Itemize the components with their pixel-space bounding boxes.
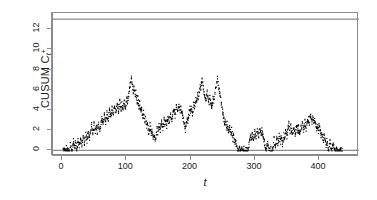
reference-lines bbox=[53, 19, 359, 150]
x-axis: 0100200300400 bbox=[52, 155, 358, 161]
x-axis-tick-label: 200 bbox=[175, 162, 205, 171]
x-axis-tick-label: 0 bbox=[46, 162, 76, 171]
x-axis-tick-label: 100 bbox=[110, 162, 140, 171]
data-points-group bbox=[63, 75, 343, 151]
x-axis-tick bbox=[61, 155, 62, 160]
plot-panel bbox=[52, 12, 358, 155]
cusum-chart-figure: CUSUM Ct+ 0100200300400 t 024681012 bbox=[0, 0, 377, 200]
y-axis-tick-label: 0 bbox=[32, 139, 41, 159]
y-axis-tick-label: 10 bbox=[32, 38, 41, 58]
y-axis-tick-label: 4 bbox=[32, 99, 41, 119]
y-axis-tick-label: 2 bbox=[32, 119, 41, 139]
y-axis-tick-label: 8 bbox=[32, 58, 41, 78]
y-axis-tick-label: 6 bbox=[32, 78, 41, 98]
x-axis-tick bbox=[190, 155, 191, 160]
cusum-series-marks bbox=[63, 75, 343, 151]
y-axis-tick-label: 12 bbox=[32, 18, 41, 38]
plot-area bbox=[53, 13, 359, 156]
x-axis-tick-label: 300 bbox=[239, 162, 269, 171]
x-axis-tick bbox=[125, 155, 126, 160]
x-axis-line bbox=[52, 155, 358, 156]
x-axis-title: t bbox=[52, 176, 358, 188]
x-axis-tick bbox=[254, 155, 255, 160]
x-axis-tick bbox=[318, 155, 319, 160]
x-axis-tick-label: 400 bbox=[303, 162, 333, 171]
